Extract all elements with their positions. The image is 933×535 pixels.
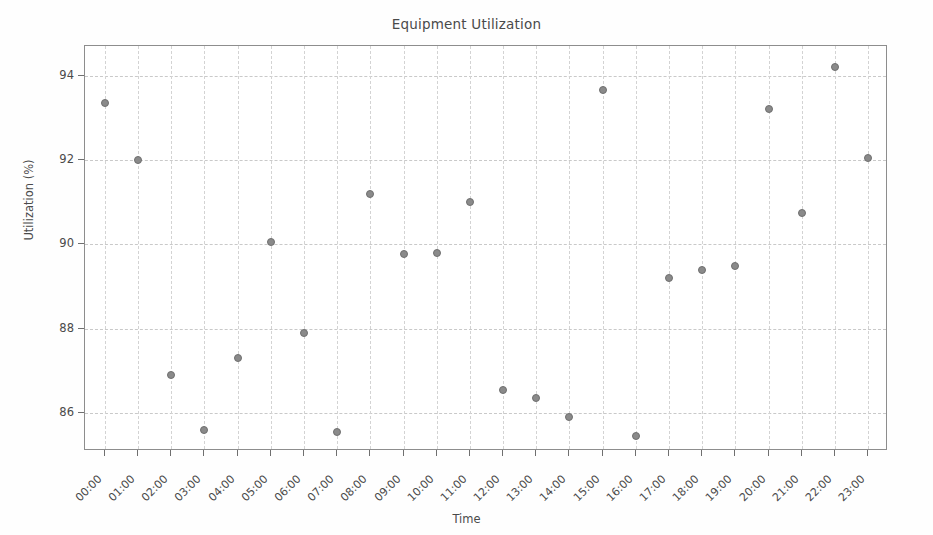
gridline-vertical bbox=[868, 46, 869, 449]
gridline-vertical bbox=[702, 46, 703, 449]
gridline-vertical bbox=[404, 46, 405, 449]
x-axis-tick-label: 05:00 bbox=[239, 473, 271, 505]
x-axis-tick-label: 19:00 bbox=[703, 473, 735, 505]
data-point bbox=[167, 371, 175, 379]
x-axis-tick-label: 14:00 bbox=[537, 473, 569, 505]
gridline-vertical bbox=[370, 46, 371, 449]
data-point bbox=[532, 394, 540, 402]
y-axis-tick-mark bbox=[78, 412, 84, 413]
x-axis-tick-mark bbox=[801, 450, 802, 456]
gridline-vertical bbox=[171, 46, 172, 449]
x-axis-tick-label: 09:00 bbox=[371, 473, 403, 505]
y-axis-tick-mark bbox=[78, 243, 84, 244]
x-axis-tick-label: 23:00 bbox=[836, 473, 868, 505]
x-axis-tick-label: 13:00 bbox=[504, 473, 536, 505]
x-axis-tick-mark bbox=[436, 450, 437, 456]
x-axis-tick-mark bbox=[701, 450, 702, 456]
x-axis-tick-label: 16:00 bbox=[604, 473, 636, 505]
chart-figure: Equipment Utilization Utilization (%) 86… bbox=[0, 0, 933, 535]
gridline-vertical bbox=[437, 46, 438, 449]
gridline-vertical bbox=[138, 46, 139, 449]
x-axis-tick-mark bbox=[602, 450, 603, 456]
x-axis-tick-mark bbox=[568, 450, 569, 456]
data-point bbox=[798, 209, 806, 217]
x-axis-tick-mark bbox=[203, 450, 204, 456]
data-point bbox=[267, 238, 275, 246]
x-axis-tick-label: 11:00 bbox=[438, 473, 470, 505]
data-point bbox=[765, 105, 773, 113]
y-axis-tick-label: 92 bbox=[34, 152, 74, 166]
x-axis-tick-mark bbox=[734, 450, 735, 456]
x-axis-tick-label: 21:00 bbox=[770, 473, 802, 505]
x-axis-tick-mark bbox=[502, 450, 503, 456]
y-axis-tick-label: 88 bbox=[34, 321, 74, 335]
gridline-vertical bbox=[470, 46, 471, 449]
gridline-vertical bbox=[802, 46, 803, 449]
y-axis-tick-mark bbox=[78, 328, 84, 329]
x-axis-tick-mark bbox=[170, 450, 171, 456]
data-point bbox=[200, 426, 208, 434]
data-point bbox=[599, 86, 607, 94]
x-axis-tick-label: 03:00 bbox=[172, 473, 204, 505]
gridline-vertical bbox=[271, 46, 272, 449]
gridline-vertical bbox=[636, 46, 637, 449]
x-axis-tick-mark bbox=[104, 450, 105, 456]
data-point bbox=[234, 354, 242, 362]
y-axis-tick-label: 94 bbox=[34, 68, 74, 82]
y-axis-tick-mark bbox=[78, 75, 84, 76]
x-axis-tick-label: 18:00 bbox=[670, 473, 702, 505]
data-point bbox=[300, 329, 308, 337]
x-axis-tick-label: 08:00 bbox=[338, 473, 370, 505]
x-axis-tick-label: 22:00 bbox=[803, 473, 835, 505]
x-axis-tick-mark bbox=[635, 450, 636, 456]
x-axis-tick-mark bbox=[469, 450, 470, 456]
x-axis-tick-label: 20:00 bbox=[736, 473, 768, 505]
x-axis-tick-mark bbox=[237, 450, 238, 456]
x-axis-tick-mark bbox=[303, 450, 304, 456]
data-point bbox=[632, 432, 640, 440]
x-axis-tick-mark bbox=[768, 450, 769, 456]
data-point bbox=[333, 428, 341, 436]
x-axis-tick-mark bbox=[369, 450, 370, 456]
gridline-vertical bbox=[204, 46, 205, 449]
data-point bbox=[466, 198, 474, 206]
data-point bbox=[565, 413, 573, 421]
x-axis-tick-label: 01:00 bbox=[106, 473, 138, 505]
gridline-vertical bbox=[304, 46, 305, 449]
data-point bbox=[433, 249, 441, 257]
x-axis-tick-mark bbox=[270, 450, 271, 456]
x-axis-tick-mark bbox=[403, 450, 404, 456]
x-axis-tick-mark bbox=[668, 450, 669, 456]
data-point bbox=[366, 190, 374, 198]
gridline-vertical bbox=[536, 46, 537, 449]
x-axis-tick-mark bbox=[867, 450, 868, 456]
x-axis-tick-mark bbox=[137, 450, 138, 456]
gridline-vertical bbox=[669, 46, 670, 449]
y-axis-tick-labels: 8688909294 bbox=[22, 45, 74, 450]
chart-title: Equipment Utilization bbox=[0, 16, 933, 32]
x-axis-tick-mark bbox=[336, 450, 337, 456]
gridline-vertical bbox=[337, 46, 338, 449]
data-point bbox=[101, 99, 109, 107]
x-axis-tick-label: 10:00 bbox=[405, 473, 437, 505]
data-point bbox=[134, 156, 142, 164]
data-point bbox=[499, 386, 507, 394]
y-axis-tick-mark bbox=[78, 159, 84, 160]
x-axis-tick-label: 06:00 bbox=[272, 473, 304, 505]
plot-area bbox=[84, 45, 887, 450]
x-axis-tick-label: 04:00 bbox=[206, 473, 238, 505]
x-axis-tick-label: 00:00 bbox=[73, 473, 105, 505]
data-point bbox=[400, 250, 408, 258]
data-point bbox=[831, 63, 839, 71]
x-axis-tick-label: 17:00 bbox=[637, 473, 669, 505]
x-axis-tick-label: 02:00 bbox=[139, 473, 171, 505]
x-axis-label: Time bbox=[0, 512, 933, 526]
y-axis-tick-label: 90 bbox=[34, 236, 74, 250]
x-axis-tick-mark bbox=[535, 450, 536, 456]
gridline-vertical bbox=[238, 46, 239, 449]
gridline-vertical bbox=[603, 46, 604, 449]
data-point bbox=[665, 274, 673, 282]
data-point bbox=[698, 266, 706, 274]
data-point bbox=[731, 262, 739, 270]
gridline-vertical bbox=[835, 46, 836, 449]
